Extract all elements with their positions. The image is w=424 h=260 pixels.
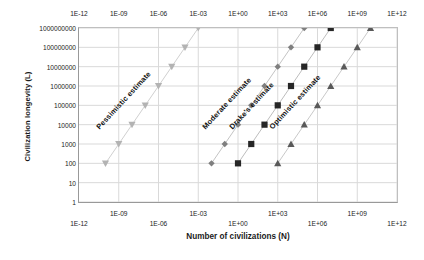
y-tick-label: 100 [18, 160, 76, 167]
y-tick-label: 100000 [18, 102, 76, 109]
x-tick-label-bottom: 1E-12 [70, 220, 88, 227]
x-tick-label-top: 1E-03 [189, 10, 207, 17]
x-tick-label-top: 1E-09 [110, 10, 128, 17]
x-tick-label-top: 1E+09 [348, 10, 367, 17]
data-point-square [328, 28, 334, 31]
data-point-square [248, 141, 254, 147]
data-point-diamond [288, 44, 294, 50]
y-tick-label: 100000000 [18, 44, 76, 51]
x-tick-label-bottom: 1E+00 [228, 220, 247, 227]
data-point-square [288, 83, 294, 89]
x-tick-label-top: 1E+00 [228, 10, 247, 17]
y-tick-label: 1000 [18, 141, 76, 148]
data-point-square [314, 44, 320, 50]
x-tick-label-bottom: 1E-03 [189, 210, 207, 217]
x-tick-label-bottom: 1E+12 [387, 220, 406, 227]
x-tick-label-bottom: 1E+03 [268, 210, 287, 217]
x-tick-label-top: 1E+12 [387, 10, 406, 17]
data-point-diamond [208, 160, 214, 166]
x-tick-label-top: 1E-06 [150, 10, 168, 17]
x-tick-label-bottom: 1E+09 [348, 210, 367, 217]
plot-area: Pessimistic estimateModerate estimateDra… [78, 27, 398, 203]
x-tick-label-bottom: 1E-06 [150, 220, 168, 227]
x-tick-label-top: 1E+03 [268, 10, 287, 17]
data-point-square [275, 102, 281, 108]
chart-container: Civilization longevity (L) Number of civ… [0, 0, 424, 260]
data-point-square [301, 64, 307, 70]
data-point-square [235, 160, 241, 166]
y-tick-label: 1 [18, 199, 76, 206]
x-tick-label-bottom: 1E+06 [308, 220, 327, 227]
x-tick-label-bottom: 1E-09 [110, 210, 128, 217]
y-tick-label: 10000000 [18, 63, 76, 70]
data-point-diamond [275, 63, 281, 69]
y-tick-label: 10 [18, 179, 76, 186]
x-axis-bottom-tick-labels: 1E-121E-091E-061E-031E+001E+031E+061E+09… [0, 206, 424, 236]
data-point-diamond [222, 141, 228, 147]
y-tick-label: 10000 [18, 121, 76, 128]
y-tick-label: 1000000000 [18, 25, 76, 32]
x-tick-label-top: 1E+06 [308, 10, 327, 17]
y-tick-label: 1000000 [18, 83, 76, 90]
